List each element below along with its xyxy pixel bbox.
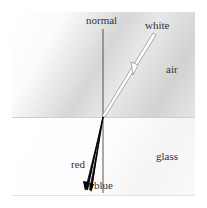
red-label: red <box>71 159 85 170</box>
air-label: air <box>166 64 178 75</box>
ray-diagram <box>0 0 207 208</box>
normal-label: normal <box>86 15 117 26</box>
blue-label: blue <box>94 180 113 191</box>
glass-label: glass <box>156 151 178 162</box>
incident-white-ray <box>102 33 156 117</box>
white-label: white <box>145 20 169 31</box>
